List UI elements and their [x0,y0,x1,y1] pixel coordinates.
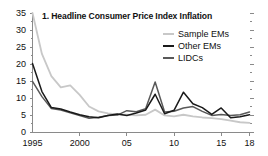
legend-swatch-icon [163,45,174,47]
legend-swatch-icon [163,33,174,35]
legend-label: Other EMs [178,42,221,51]
legend-label: Sample EMs [178,30,229,39]
legend-item[interactable]: Sample EMs [163,28,229,40]
legend-swatch-icon [163,57,174,59]
legend-item[interactable]: Other EMs [163,40,229,52]
chart-legend: Sample EMsOther EMsLIDCs [163,28,229,64]
legend-label: LIDCs [178,54,203,63]
chart-panel: 1. Headline Consumer Price Index Inflati… [0,0,268,156]
legend-item[interactable]: LIDCs [163,52,229,64]
plot-area [0,0,268,156]
